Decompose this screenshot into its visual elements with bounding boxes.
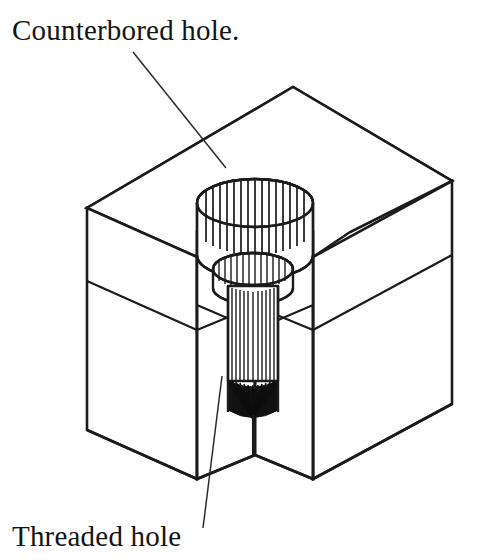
counterbore-label: Counterbored hole. bbox=[12, 14, 240, 46]
technical-drawing-figure: Counterbored hole. Threaded hole bbox=[0, 0, 477, 560]
counterbore-leader-line bbox=[133, 52, 226, 168]
counterbore-hatching bbox=[206, 179, 304, 255]
isometric-block-drawing: Counterbored hole. Threaded hole bbox=[0, 0, 477, 560]
threaded-hole-label: Threaded hole bbox=[12, 520, 181, 552]
drill-point-cone bbox=[228, 381, 278, 419]
